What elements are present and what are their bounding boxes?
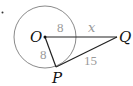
label-P: P <box>51 69 63 86</box>
tangent-circle-diagram: O Q P 8 x 8 15 <box>0 0 133 86</box>
center-point-O <box>44 36 47 39</box>
segment-OP <box>45 37 56 67</box>
label-Q: Q <box>119 28 131 46</box>
label-PQ: 15 <box>84 53 97 68</box>
label-OQ-radius: 8 <box>57 20 64 35</box>
label-OP: 8 <box>40 47 47 62</box>
label-x: x <box>88 20 96 35</box>
label-O: O <box>30 28 42 46</box>
bullet-dot <box>2 12 4 14</box>
